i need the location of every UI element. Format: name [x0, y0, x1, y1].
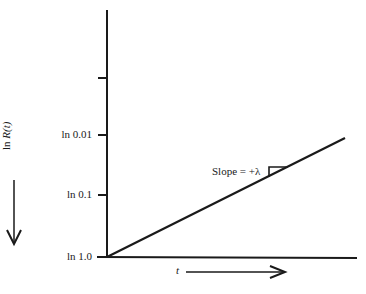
y-tick-label: ln 1.0 [32, 250, 92, 262]
y-axis-label: ln R(t) [0, 122, 12, 150]
ylabel-prefix: ln [0, 139, 12, 150]
slope-annotation: Slope = +λ [212, 165, 260, 177]
data-line [107, 138, 345, 257]
y-tick-label: ln 0.1 [32, 188, 92, 200]
ylabel-var: R(t) [0, 122, 12, 139]
y-tick-label: ln 0.01 [32, 128, 92, 140]
x-axis [97, 257, 357, 258]
x-axis-label: t [176, 264, 179, 276]
